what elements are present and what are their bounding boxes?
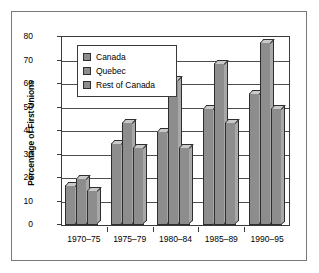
bar-side-face bbox=[235, 119, 239, 224]
y-tick-label: 30 bbox=[13, 150, 33, 158]
bar bbox=[179, 147, 190, 225]
y-tick-label: 50 bbox=[13, 103, 33, 111]
bar bbox=[76, 178, 87, 225]
bar bbox=[87, 190, 98, 225]
x-tick-mark bbox=[244, 227, 245, 232]
bar-side-face bbox=[281, 105, 285, 224]
y-tick-label: 10 bbox=[13, 197, 33, 205]
bar bbox=[122, 122, 133, 225]
x-tick-label: 1990–95 bbox=[237, 234, 297, 244]
legend-swatch-icon bbox=[83, 53, 91, 61]
bar bbox=[111, 143, 122, 225]
bar bbox=[133, 147, 144, 225]
y-tick-label: 40 bbox=[13, 126, 33, 134]
y-tick-label: 20 bbox=[13, 173, 33, 181]
bar-group bbox=[199, 37, 245, 225]
bar bbox=[249, 93, 260, 225]
legend-label: Quebec bbox=[96, 66, 126, 76]
y-tick-label: 80 bbox=[13, 32, 33, 40]
legend-swatch-icon bbox=[83, 81, 91, 89]
bar bbox=[168, 79, 179, 225]
legend: CanadaQuebecRest of Canada bbox=[77, 45, 177, 97]
bar bbox=[271, 108, 282, 226]
bar bbox=[225, 122, 236, 225]
x-tick-mark bbox=[198, 227, 199, 232]
x-tick-mark bbox=[153, 227, 154, 232]
bar bbox=[157, 131, 168, 225]
bar bbox=[260, 42, 271, 225]
figure-frame: Percentage of First Unions 0102030405060… bbox=[11, 11, 307, 261]
legend-item: Quebec bbox=[83, 64, 170, 78]
bar-side-face bbox=[189, 145, 193, 224]
legend-label: Canada bbox=[96, 52, 126, 62]
y-tick-label: 0 bbox=[13, 220, 33, 228]
bar bbox=[65, 185, 76, 225]
bar bbox=[214, 63, 225, 225]
bar bbox=[203, 108, 214, 226]
legend-swatch-icon bbox=[83, 67, 91, 75]
x-tick-mark bbox=[107, 227, 108, 232]
legend-label: Rest of Canada bbox=[96, 80, 155, 90]
legend-item: Rest of Canada bbox=[83, 78, 170, 92]
legend-item: Canada bbox=[83, 50, 170, 64]
bar-side-face bbox=[143, 145, 147, 224]
y-tick-label: 70 bbox=[13, 56, 33, 64]
bar-side-face bbox=[97, 187, 101, 224]
y-tick-label: 60 bbox=[13, 79, 33, 87]
bar-group bbox=[245, 37, 291, 225]
